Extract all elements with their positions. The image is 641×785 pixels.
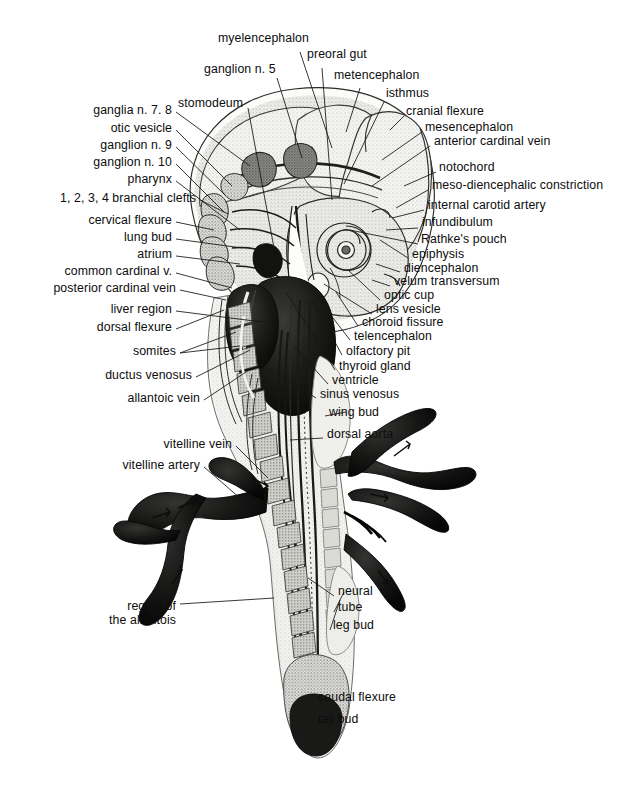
label-sinus-venosus: sinus venosus: [320, 388, 399, 402]
label-ganglion-n-10: ganglion n. 10: [0, 156, 172, 170]
label-somites: somites: [0, 345, 176, 359]
label-posterior-cardinal-vein: posterior cardinal vein: [0, 282, 176, 296]
label-region-of-the-allantois-line2: the allantois: [109, 613, 176, 627]
label-choroid-fissure: choroid fissure: [362, 316, 443, 330]
label-ganglion-n-9: ganglion n. 9: [0, 139, 172, 153]
label-cranial-flexure: cranial flexure: [406, 105, 484, 119]
label-optic-cup: optic cup: [384, 289, 434, 303]
label-atrium: atrium: [0, 248, 172, 262]
label-branchial-clefts: 1, 2, 3, 4 branchial clefts: [0, 192, 196, 206]
label-ganglia-n-7-8: ganglia n. 7. 8: [0, 104, 172, 118]
label-ductus-venosus: ductus venosus: [0, 369, 192, 383]
label-internal-carotid-artery: internal carotid artery: [428, 199, 546, 213]
label-rathkes-pouch: Rathke's pouch: [421, 233, 507, 247]
ganglion-n5-shape: [284, 144, 317, 179]
label-isthmus: isthmus: [386, 87, 429, 101]
label-velum-transversum: velum transversum: [394, 275, 500, 289]
label-ganglion-n-5: ganglion n. 5: [204, 63, 276, 77]
label-thyroid-gland: thyroid gland: [339, 360, 411, 374]
label-region-of-the-allantois: region ofthe allantois: [0, 599, 176, 627]
label-dorsal-flexure: dorsal flexure: [0, 321, 172, 335]
label-notochord: notochord: [439, 161, 495, 175]
label-region-of-the-allantois-line1: region of: [127, 599, 176, 613]
label-pharynx: pharynx: [0, 173, 172, 187]
label-olfactory-pit: olfactory pit: [346, 345, 410, 359]
label-epiphysis: epiphysis: [412, 248, 464, 262]
label-common-cardinal-v: common cardinal v.: [0, 265, 172, 279]
figure-canvas: myelencephalonpreoral gutganglion n. 5me…: [0, 0, 641, 785]
label-lung-bud: lung bud: [0, 231, 172, 245]
label-tube: tube: [338, 601, 362, 615]
label-infundibulum: infundibulum: [422, 216, 493, 230]
label-cervical-flexure: cervical flexure: [0, 214, 172, 228]
label-metencephalon: metencephalon: [334, 69, 419, 83]
label-liver-region: liver region: [0, 303, 172, 317]
label-myelencephalon: myelencephalon: [218, 32, 309, 46]
label-telencephalon: telencephalon: [354, 330, 432, 344]
label-otic-vesicle: otic vesicle: [0, 122, 172, 136]
label-mesencephalon: mesencephalon: [425, 121, 513, 135]
label-preoral-gut: preoral gut: [307, 48, 367, 62]
stomodeum-shape: [253, 244, 282, 278]
label-caudal-flexure: caudal flexure: [318, 691, 396, 705]
label-anterior-cardinal-vein: anterior cardinal vein: [434, 135, 550, 149]
label-stomodeum: stomodeum: [178, 97, 243, 111]
label-wing-bud: wing bud: [329, 406, 379, 420]
label-tail-bud: tail bud: [318, 713, 358, 727]
label-allantoic-vein: allantoic vein: [0, 392, 200, 406]
label-leg-bud: leg bud: [333, 619, 374, 633]
label-vitelline-artery: vitelline artery: [0, 459, 200, 473]
label-meso-diencephalic-constriction: meso-diencephalic constriction: [432, 179, 603, 193]
label-neural: neural: [338, 585, 373, 599]
label-vitelline-vein: vitelline vein: [0, 438, 232, 452]
label-ventricle: ventricle: [332, 374, 379, 388]
label-dorsal-aorta: dorsal aorta: [327, 428, 393, 442]
